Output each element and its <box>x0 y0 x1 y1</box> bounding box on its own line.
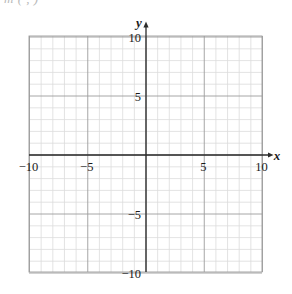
y-tick-label: −5 <box>128 208 141 222</box>
coordinate-plane-screenshot: m ( , ) x y −10−5510 <box>0 0 292 294</box>
x-tick-label: −5 <box>80 160 93 174</box>
y-tick-label: 5 <box>135 90 141 104</box>
coordinate-plane-svg: x y −10−5510 105−5−10 <box>0 0 292 294</box>
y-tick-label: −10 <box>121 267 141 281</box>
x-axis-name-label: x <box>273 148 281 163</box>
y-axis-name-label: y <box>134 15 142 30</box>
graph-area: x y −10−5510 105−5−10 <box>0 0 292 294</box>
y-tick-label: 10 <box>129 31 142 45</box>
x-tick-label: 10 <box>255 160 268 174</box>
x-tick-label: −10 <box>19 160 39 174</box>
x-tick-label: 5 <box>200 160 206 174</box>
